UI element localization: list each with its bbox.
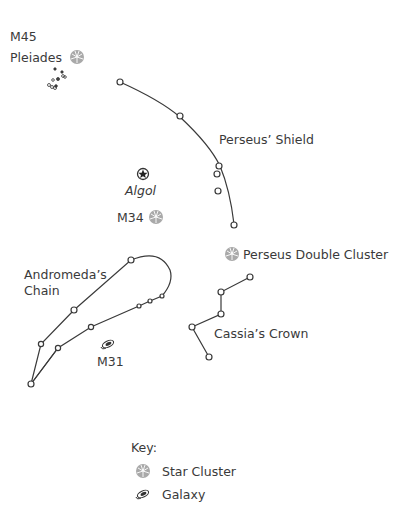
- perseus-shield-label: Perseus’ Shield: [219, 132, 314, 147]
- perseus-shield-constellation: [117, 79, 237, 228]
- m34-label: M34: [117, 210, 144, 225]
- m31-label: M31: [97, 354, 124, 369]
- key-star-cluster-icon: [136, 464, 150, 478]
- double-cluster-icon: [225, 247, 239, 261]
- algol-label: Algol: [125, 183, 156, 198]
- m34-cluster-icon: [149, 210, 163, 224]
- key-title: Key:: [131, 440, 157, 455]
- cassia-crown-constellation: [189, 274, 253, 360]
- pleiades-stars: [48, 68, 67, 90]
- star-cluster-icon: [70, 50, 84, 64]
- pleiades-label: Pleiades: [10, 50, 62, 65]
- m45-label: M45: [10, 29, 37, 44]
- andromeda-label-line1: Andromeda’s: [24, 267, 107, 282]
- algol-star-icon: [138, 169, 149, 180]
- cassia-crown-label: Cassia’s Crown: [214, 326, 308, 341]
- m31-galaxy-icon: [101, 339, 115, 350]
- key-galaxy-label: Galaxy: [162, 487, 205, 502]
- andromeda-label-line2: Chain: [24, 283, 60, 298]
- key-galaxy-icon: [136, 489, 150, 500]
- key-star-cluster-label: Star Cluster: [162, 464, 236, 479]
- double-cluster-label: Perseus Double Cluster: [243, 247, 388, 262]
